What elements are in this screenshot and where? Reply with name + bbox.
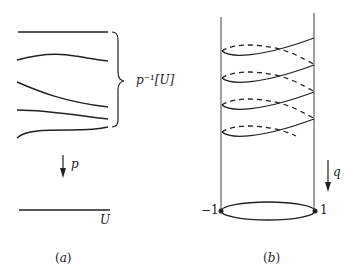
panel-a-sheets — [17, 32, 108, 138]
point-minus-one — [219, 209, 224, 214]
arrow-down-icon — [60, 155, 66, 178]
label-one: 1 — [320, 203, 328, 217]
base-circle — [221, 202, 315, 220]
sheet-5 — [17, 127, 108, 138]
arrow-down-icon — [325, 160, 331, 192]
sheet-2 — [17, 54, 108, 61]
figure-canvas — [0, 0, 357, 280]
helix — [222, 38, 314, 136]
map-label-p: p — [71, 157, 79, 171]
point-one — [313, 209, 318, 214]
sheet-3 — [17, 82, 108, 107]
label-minus-one: −1 — [201, 203, 219, 217]
sheet-4 — [17, 110, 108, 119]
caption-b: (b)(b) — [263, 251, 280, 265]
base-label-u: U — [100, 213, 110, 227]
preimage-label: p⁻¹[U] — [136, 73, 174, 87]
caption-a: ((a)a) — [55, 251, 72, 265]
brace-icon — [112, 32, 124, 127]
map-label-q: q — [333, 165, 341, 179]
